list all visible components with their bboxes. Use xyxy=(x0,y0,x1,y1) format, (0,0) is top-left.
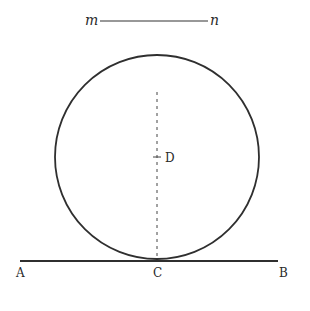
geometry-diagram: m n D A C B xyxy=(0,0,310,311)
label-d: D xyxy=(165,151,175,165)
label-m: m xyxy=(85,12,98,28)
label-a: A xyxy=(15,266,25,280)
label-c: C xyxy=(153,266,162,280)
label-b: B xyxy=(279,266,288,280)
label-n: n xyxy=(210,12,219,28)
